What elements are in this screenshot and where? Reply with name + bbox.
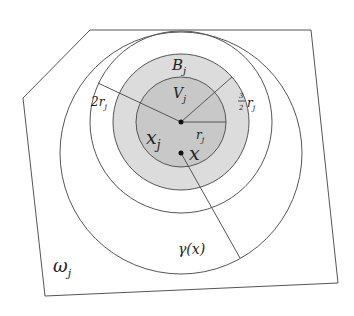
diagram-svg: Bj Vj 2rj 3 2 rj rj xj x γ(x) ωj (0, 0, 354, 316)
diagram: Bj Vj 2rj 3 2 rj rj xj x γ(x) ωj (0, 0, 354, 316)
label-2r-j: 2rj (90, 95, 107, 111)
label-3half-num: 3 (239, 92, 244, 100)
label-3half-den: 2 (238, 104, 244, 112)
label-x: x (189, 142, 200, 164)
label-3half-r: rj (247, 96, 256, 112)
label-gamma: γ(x) (178, 241, 205, 257)
point-xj (179, 120, 184, 125)
point-x (179, 151, 184, 156)
label-omega-j: ωj (53, 255, 72, 280)
